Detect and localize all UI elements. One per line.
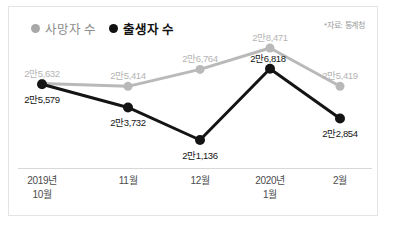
value-label-births: 2만2,854 — [322, 126, 357, 140]
value-label-deaths: 2만6,764 — [182, 51, 217, 65]
value-label-deaths: 2만8,471 — [252, 30, 287, 44]
x-tick-label: 2월 — [333, 174, 347, 188]
value-label-deaths: 2만5,414 — [110, 68, 145, 82]
x-axis-line — [18, 168, 372, 169]
x-tick-label: 11월 — [119, 174, 137, 188]
x-tick-label: 2019년10월 — [27, 174, 57, 202]
value-label-births: 2만1,136 — [182, 148, 217, 162]
x-tick-label: 2020년1월 — [255, 174, 285, 202]
value-label-deaths: 2만5,632 — [24, 66, 59, 80]
value-label-deaths: 2만5,419 — [322, 68, 357, 82]
value-label-births: 2만6,818 — [250, 51, 285, 65]
x-tick-label: 12월 — [190, 174, 209, 188]
value-label-births: 2만3,732 — [110, 115, 145, 129]
chart-labels-layer: 2만5,6322만5,4142만6,7642만8,4712만5,4192만5,5… — [0, 0, 395, 225]
value-label-births: 2만5,579 — [24, 92, 59, 106]
